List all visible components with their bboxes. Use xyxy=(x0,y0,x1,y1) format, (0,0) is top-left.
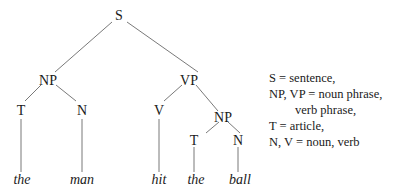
node-verb: V xyxy=(154,104,164,118)
leaf-ball: ball xyxy=(229,173,251,187)
node-noun-1: N xyxy=(77,104,87,118)
node-noun-phrase-subject: NP xyxy=(39,74,57,88)
leaf-the-2: the xyxy=(187,173,204,187)
legend-line-noun-verb: N, V = noun, verb xyxy=(269,134,382,150)
node-noun-phrase-object: NP xyxy=(214,111,232,125)
legend-line-sentence: S = sentence, xyxy=(269,70,382,86)
legend: S = sentence, NP, VP = noun phrase, verb… xyxy=(269,70,382,150)
node-verb-phrase: VP xyxy=(180,74,198,88)
node-article-2: T xyxy=(190,134,199,148)
legend-line-article: T = article, xyxy=(269,118,382,134)
legend-line-phrases: NP, VP = noun phrase, xyxy=(269,86,382,102)
leaf-hit: hit xyxy=(152,173,167,187)
node-sentence: S xyxy=(115,9,123,23)
node-article-1: T xyxy=(17,104,26,118)
legend-line-verb-phrase: verb phrase, xyxy=(269,102,382,118)
syntax-tree-edges xyxy=(0,0,270,188)
node-noun-2: N xyxy=(233,134,243,148)
leaf-the-1: the xyxy=(13,173,30,187)
leaf-man: man xyxy=(70,173,94,187)
